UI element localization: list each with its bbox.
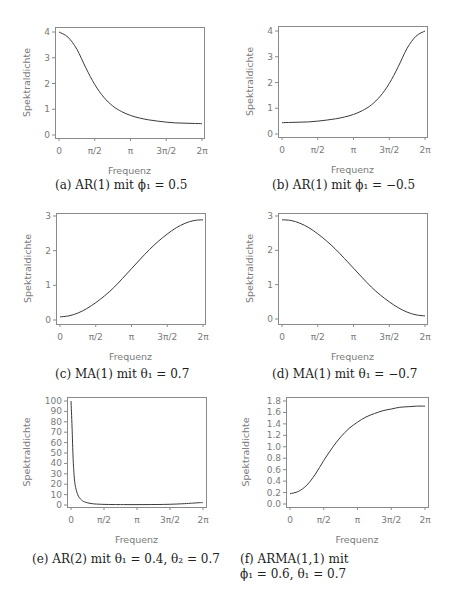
x-axis-title: Frequenz [335, 534, 378, 545]
y-tick-label: 0.0 [267, 499, 282, 509]
x-axis-title: Frequenz [109, 351, 152, 362]
caption-a: (a) AR(1) mit ϕ₁ = 0.5 [55, 178, 187, 193]
x-tick-label: π/2 [88, 146, 102, 156]
x-tick-label: π/2 [89, 332, 103, 342]
x-tick-label: π [129, 332, 135, 342]
x-tick-label: π [351, 332, 357, 342]
y-tick-label: 40 [51, 458, 63, 468]
x-tick-label: 0 [68, 515, 74, 525]
x-tick-label: π [355, 515, 361, 525]
y-tick-label: 4 [44, 27, 50, 37]
caption-e: (e) AR(2) mit θ₁ = 0.4, θ₂ = 0.7 [32, 552, 220, 567]
x-tick-label: π [128, 146, 134, 156]
chart-e: 01020304050607080901000π/2π3π/22πFrequen… [0, 380, 227, 602]
y-tick-label: 0 [45, 315, 51, 325]
caption-f: (f) ARMA(1,1) mit [240, 552, 349, 567]
y-tick-label: 70 [51, 427, 63, 437]
x-tick-label: 3π/2 [156, 146, 176, 156]
y-tick-label: 80 [51, 417, 63, 427]
chart-panel-a: 012340π/2π3π/22πFrequenzSpektraldichte (… [0, 0, 227, 200]
y-tick-label: 30 [51, 469, 63, 479]
y-tick-label: 20 [51, 479, 63, 489]
x-tick-label: π/2 [311, 145, 325, 155]
chart-panel-f: 0.00.20.40.60.81.01.21.41.61.80π/2π3π/22… [227, 380, 454, 602]
x-tick-label: 0 [56, 146, 62, 156]
spectral-density-curve [282, 31, 425, 123]
y-axis-title: Spektraldichte [244, 234, 255, 303]
x-axis-title: Frequenz [331, 351, 374, 362]
y-tick-label: 3 [267, 211, 273, 221]
y-tick-label: 2 [44, 79, 50, 89]
y-tick-label: 1.8 [267, 396, 282, 406]
y-tick-label: 1 [267, 103, 273, 113]
y-tick-label: 2 [45, 246, 51, 256]
x-tick-label: π [134, 515, 140, 525]
spectral-density-curve [282, 220, 425, 316]
caption-b: (b) AR(1) mit ϕ₁ = −0.5 [272, 178, 415, 193]
chart-b: 012340π/2π3π/22πFrequenzSpektraldichte [227, 0, 454, 200]
x-tick-label: 0 [279, 145, 285, 155]
plot-frame [56, 28, 205, 139]
y-tick-label: 1 [267, 280, 273, 290]
spectral-density-curve [59, 32, 202, 124]
y-axis-title: Spektraldichte [21, 417, 32, 486]
x-tick-label: 0 [279, 332, 285, 342]
chart-panel-e: 01020304050607080901000π/2π3π/22πFrequen… [0, 380, 227, 602]
x-tick-label: 0 [57, 332, 63, 342]
x-tick-label: 2π [419, 332, 431, 342]
x-tick-label: 2π [197, 515, 209, 525]
y-tick-label: 2 [267, 245, 273, 255]
y-tick-label: 60 [51, 438, 63, 448]
y-tick-label: 0.6 [267, 465, 282, 475]
x-tick-label: 3π/2 [379, 145, 399, 155]
y-tick-label: 4 [267, 26, 273, 36]
y-tick-label: 10 [51, 490, 63, 500]
y-tick-label: 1.2 [267, 430, 281, 440]
y-axis-title: Spektraldichte [21, 48, 32, 117]
plot-frame [279, 27, 428, 138]
y-tick-label: 0 [44, 130, 50, 140]
x-axis-title: Frequenz [331, 164, 374, 175]
y-tick-label: 1.0 [267, 442, 282, 452]
y-tick-label: 100 [45, 396, 62, 406]
y-tick-label: 0 [267, 129, 273, 139]
spectral-density-curve [290, 406, 425, 494]
x-tick-label: π [351, 145, 357, 155]
x-tick-label: 2π [419, 515, 431, 525]
chart-panel-d: 01230π/2π3π/22πFrequenzSpektraldichte (d… [227, 200, 454, 400]
y-tick-label: 2 [267, 78, 273, 88]
y-tick-label: 0.4 [267, 476, 282, 486]
x-tick-label: π/2 [97, 515, 111, 525]
y-tick-label: 3 [45, 211, 51, 221]
x-tick-label: 3π/2 [381, 515, 401, 525]
y-tick-label: 0.8 [267, 453, 282, 463]
y-tick-label: 1 [44, 104, 50, 114]
y-tick-label: 50 [51, 448, 63, 458]
caption-f-line2: ϕ₁ = 0.6, θ₁ = 0.7 [240, 567, 346, 582]
y-axis-title: Spektraldichte [22, 234, 33, 303]
x-axis-title: Frequenz [115, 534, 158, 545]
spectral-density-curve [60, 220, 203, 317]
y-tick-label: 1.6 [267, 407, 282, 417]
x-tick-label: 3π/2 [157, 332, 177, 342]
spectral-density-curve [71, 401, 203, 505]
y-axis-title: Spektraldichte [244, 47, 255, 116]
y-axis-title: Spektraldichte [240, 417, 251, 486]
chart-panel-b: 012340π/2π3π/22πFrequenzSpektraldichte (… [227, 0, 454, 200]
x-tick-label: π/2 [317, 515, 331, 525]
plot-frame [68, 398, 207, 508]
chart-panel-c: 01230π/2π3π/22πFrequenzSpektraldichte (c… [0, 200, 227, 400]
x-tick-label: 2π [419, 145, 431, 155]
y-tick-label: 0 [56, 500, 62, 510]
plot-frame [287, 398, 429, 508]
y-tick-label: 3 [267, 52, 273, 62]
y-tick-label: 0 [267, 314, 273, 324]
x-tick-label: π/2 [311, 332, 325, 342]
x-tick-label: 3π/2 [160, 515, 180, 525]
y-tick-label: 3 [44, 53, 50, 63]
y-tick-label: 1.4 [267, 419, 282, 429]
plot-frame [279, 214, 428, 325]
x-axis-title: Frequenz [108, 165, 151, 176]
y-tick-label: 90 [51, 406, 63, 416]
y-tick-label: 1 [45, 280, 51, 290]
